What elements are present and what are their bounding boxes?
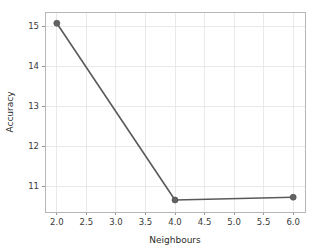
chart-figure: 2.02.53.03.54.04.55.05.56.0 1112131415 N… [0, 0, 318, 251]
x-tick-label: 4.5 [198, 217, 212, 227]
x-axis-title: Neighbours [149, 235, 201, 245]
x-tick-label: 6.0 [286, 217, 300, 227]
x-tick-label: 2.0 [50, 217, 64, 227]
x-tick-label: 3.5 [139, 217, 153, 227]
x-tick-labels: 2.02.53.03.54.04.55.05.56.0 [50, 217, 300, 227]
data-point [172, 197, 178, 203]
line-chart: 2.02.53.03.54.04.55.05.56.0 1112131415 N… [0, 0, 318, 251]
x-tick-label: 5.0 [227, 217, 241, 227]
y-tick-label: 11 [28, 181, 39, 191]
x-tick-label: 2.5 [80, 217, 94, 227]
data-point [54, 20, 60, 26]
y-tick-label: 14 [28, 61, 39, 71]
y-axis-title: Accuracy [5, 91, 15, 133]
x-tick-label: 4.0 [168, 217, 182, 227]
x-tick-label: 5.5 [257, 217, 271, 227]
data-point [290, 194, 296, 200]
x-tick-label: 3.0 [109, 217, 123, 227]
y-tick-label: 15 [28, 21, 39, 31]
y-tick-label: 13 [28, 101, 39, 111]
y-tick-label: 12 [28, 141, 39, 151]
